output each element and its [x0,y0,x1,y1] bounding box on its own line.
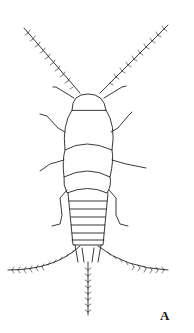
insect-drawing-icon [0,0,194,333]
panel-label: A [160,308,169,324]
